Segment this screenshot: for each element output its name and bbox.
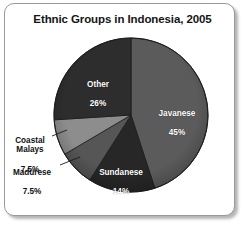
pie-label-madurese-value: 7.5% [23, 187, 42, 196]
pie-label-javanese-value: 45% [169, 128, 185, 137]
pie-label-sundanese: Sundanese 14% [88, 158, 154, 197]
pie-label-sundanese-value: 14% [113, 187, 129, 196]
pie-label-madurese-name: Madurese [13, 168, 51, 177]
pie-label-sundanese-name: Sundanese [99, 168, 143, 177]
pie-label-javanese: Javanese 45% [146, 99, 208, 138]
pie-label-javanese-name: Javanese [159, 109, 196, 118]
pie-label-other-name: Other [87, 80, 109, 89]
chart-figure: Ethnic Groups in Indonesia, 2005 [0, 0, 245, 225]
pie-label-other-value: 26% [90, 99, 106, 108]
pie-label-coastal-malays-name: Coastal Malays [15, 136, 45, 155]
pie-label-other: Other 26% [72, 70, 124, 109]
pie-label-madurese: Madurese 7.5% [4, 158, 60, 197]
